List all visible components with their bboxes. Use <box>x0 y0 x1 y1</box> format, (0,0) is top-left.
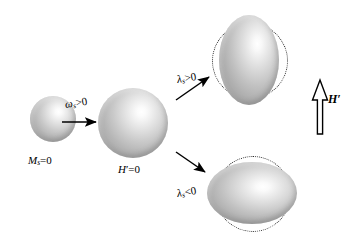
figure-canvas: Ms=0 H′=0 ωs>0 λs>0 λs<0 H′ <box>0 0 348 245</box>
prolate-ellipsoid <box>219 15 279 105</box>
negative-branch-arrow <box>176 152 205 172</box>
large-sphere <box>98 88 168 158</box>
oblate-ellipsoid <box>207 162 297 224</box>
label-branch-negative: λs<0 <box>176 185 197 200</box>
label-initial-state: Ms=0 <box>28 155 52 167</box>
label-transition-volume: ωs>0 <box>64 96 88 111</box>
label-field-vector: H′ <box>328 92 341 107</box>
label-branch-positive: λs>0 <box>176 71 197 86</box>
field-direction-arrow <box>313 80 328 134</box>
label-magnetized-state: H′=0 <box>118 164 140 175</box>
